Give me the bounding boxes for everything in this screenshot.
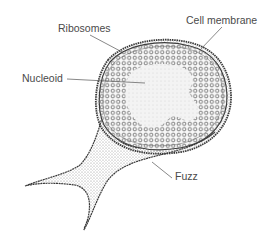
cell-illustration [0,0,274,243]
label-cell-membrane: Cell membrane [186,15,257,26]
bacterial-cell-diagram: Ribosomes Cell membrane Nucleoid Fuzz [0,0,274,243]
label-nucleoid: Nucleoid [22,73,63,84]
ribosomes-leader [90,35,122,52]
label-ribosomes: Ribosomes [58,23,111,34]
label-fuzz: Fuzz [175,171,198,182]
fuzz-leader [152,162,172,178]
cell-membrane-leader [200,27,222,50]
